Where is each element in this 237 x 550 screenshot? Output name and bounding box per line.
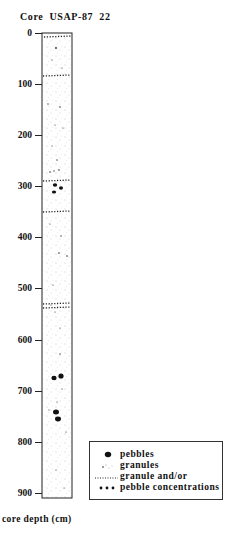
legend-item-pebbles: pebbles	[90, 449, 224, 460]
pebble-icon	[94, 449, 118, 460]
granule-dots-icon	[94, 460, 118, 471]
legend: pebbles granules granule and/or pebble c…	[89, 441, 223, 500]
legend-item-granules: granules	[90, 460, 224, 471]
legend-item-concentration-dots: pebble concentrations	[90, 482, 224, 493]
legend-item-concentration-line: granule and/or	[90, 471, 224, 482]
dotted-line-icon	[94, 471, 118, 482]
triple-dot-icon	[94, 482, 118, 493]
depth-axis-label: core depth (cm)	[2, 514, 72, 524]
